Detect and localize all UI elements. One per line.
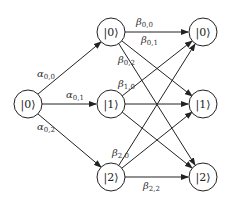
label-beta-0-1: β0,1 bbox=[140, 34, 158, 47]
svg-text:|0⟩: |0⟩ bbox=[196, 26, 211, 40]
svg-text:|0⟩: |0⟩ bbox=[21, 98, 36, 112]
edge-alpha-0-2 bbox=[38, 114, 101, 167]
label-beta-0-0: β0,0 bbox=[135, 16, 153, 29]
middle-node-2: |2⟩ bbox=[97, 163, 125, 191]
target-node-2: |2⟩ bbox=[189, 163, 217, 191]
beta-edges bbox=[119, 32, 195, 177]
target-node-1: |1⟩ bbox=[189, 90, 217, 118]
source-node-0: |0⟩ bbox=[14, 90, 42, 118]
label-alpha-0-1: α0,1 bbox=[66, 89, 84, 102]
svg-text:|0⟩: |0⟩ bbox=[104, 26, 119, 40]
label-beta-1-0: β1,0 bbox=[117, 78, 135, 91]
target-node-0: |0⟩ bbox=[189, 18, 217, 46]
label-beta-2-0: β2,0 bbox=[111, 147, 129, 160]
middle-node-0: |0⟩ bbox=[97, 18, 125, 46]
svg-text:|1⟩: |1⟩ bbox=[196, 98, 211, 112]
alpha-edges bbox=[38, 42, 101, 167]
label-alpha-0-0: α0,0 bbox=[37, 68, 55, 81]
middle-node-1: |1⟩ bbox=[97, 90, 125, 118]
svg-text:|2⟩: |2⟩ bbox=[104, 171, 119, 185]
svg-text:|1⟩: |1⟩ bbox=[104, 98, 119, 112]
quantum-transition-diagram: |0⟩ |0⟩ |1⟩ |2⟩ |0⟩ |1⟩ |2⟩ α0,0 α0,1 α0… bbox=[0, 0, 233, 202]
label-beta-2-2: β2,2 bbox=[142, 180, 160, 193]
label-alpha-0-2: α0,2 bbox=[37, 121, 55, 134]
svg-text:|2⟩: |2⟩ bbox=[196, 171, 211, 185]
edge-alpha-0-0 bbox=[38, 42, 101, 94]
